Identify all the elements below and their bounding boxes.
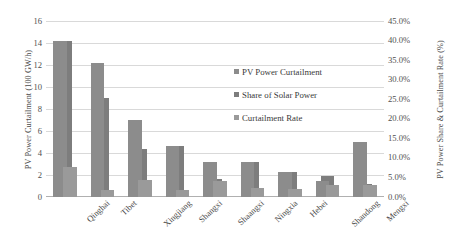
- y-axis-left-ticks: 0246810121416: [0, 21, 42, 197]
- x-axis-category-labels: QinghaiTibetXingjiangShangxiShaangxiNing…: [46, 198, 384, 248]
- bar-chart-figure: PV Power Curtailment (100 GW/h) PV Power…: [0, 0, 453, 248]
- x-tick-label: Qinghai: [84, 198, 111, 224]
- bar-group: [196, 21, 234, 197]
- bar: [91, 63, 105, 197]
- x-tick-label: Mengxi: [384, 198, 410, 224]
- bar: [176, 190, 190, 197]
- y-axis-right-ticks: 0.0%5.0%10.0%15.0%20.0%25.0%30.0%35.0%40…: [388, 21, 432, 197]
- y-tick-label-left: 10: [2, 83, 42, 92]
- bar: [63, 167, 77, 197]
- y-tick-label-left: 12: [2, 61, 42, 70]
- x-tick-label: Hebei: [308, 198, 330, 219]
- y-tick-label-left: 2: [2, 171, 42, 180]
- y-tick-label-left: 4: [2, 149, 42, 158]
- bar: [363, 185, 377, 198]
- bar-group: [84, 21, 122, 197]
- y-tick-label-left: 16: [2, 17, 42, 26]
- legend-swatch-icon: [234, 115, 239, 120]
- x-tick-label: Xingjiang: [161, 198, 193, 229]
- bar: [251, 188, 265, 197]
- bar-group: [121, 21, 159, 197]
- bar-group: [159, 21, 197, 197]
- x-tick-label: Tibet: [119, 198, 139, 217]
- bar-group: [46, 21, 84, 197]
- y-tick-label-right: 30.0%: [388, 75, 428, 84]
- y-tick-label-right: 0.0%: [388, 193, 428, 202]
- legend-item-label: PV Power Curtailment: [242, 67, 322, 77]
- legend-item-label: Curtailment Rate: [242, 113, 302, 123]
- y-tick-label-left: 6: [2, 127, 42, 136]
- y-tick-label-right: 35.0%: [388, 56, 428, 65]
- x-tick-label: Shaangxi: [236, 198, 266, 227]
- y-tick-label-right: 25.0%: [388, 95, 428, 104]
- x-tick-label: Shandong: [349, 198, 381, 229]
- bar: [288, 189, 302, 197]
- legend-item-label: Share of Solar Power: [242, 90, 317, 100]
- y-tick-label-right: 5.0%: [388, 173, 428, 182]
- legend-item[interactable]: Curtailment Rate: [234, 106, 362, 129]
- y-tick-label-left: 8: [2, 105, 42, 114]
- bar: [213, 181, 227, 197]
- y-tick-label-right: 45.0%: [388, 17, 428, 26]
- x-tick-label: Shangxi: [197, 198, 224, 225]
- y-tick-label-right: 40.0%: [388, 36, 428, 45]
- y-tick-label-right: 10.0%: [388, 153, 428, 162]
- y-tick-label-right: 20.0%: [388, 114, 428, 123]
- bar: [138, 180, 152, 197]
- chart-legend: PV Power CurtailmentShare of Solar Power…: [234, 60, 362, 129]
- legend-swatch-icon: [234, 69, 239, 74]
- y-tick-label-right: 15.0%: [388, 134, 428, 143]
- bar: [326, 185, 340, 197]
- legend-item[interactable]: Share of Solar Power: [234, 83, 362, 106]
- y-tick-label-left: 0: [2, 193, 42, 202]
- bar: [101, 190, 115, 197]
- legend-item[interactable]: PV Power Curtailment: [234, 60, 362, 83]
- y-axis-right-title: PV Power Share & Curtailment Rate (%): [436, 25, 445, 195]
- legend-swatch-icon: [234, 92, 239, 97]
- y-tick-label-left: 14: [2, 39, 42, 48]
- x-tick-label: Ningxia: [272, 198, 299, 224]
